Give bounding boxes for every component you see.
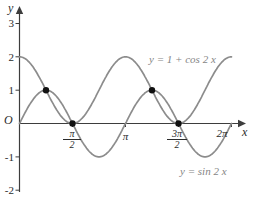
- x-tick-label-pi-over-2: π 2: [63, 129, 81, 150]
- x-tick-label-pi: π: [119, 131, 132, 142]
- y-tick-label-neg2: -2: [0, 184, 14, 196]
- y-tick-label-neg1: -1: [0, 151, 14, 163]
- y-axis-arrow-icon: [16, 6, 23, 14]
- y-tick-label-1: 1: [0, 84, 14, 96]
- fraction-denominator: 2: [63, 140, 81, 150]
- intersection-point: [175, 120, 181, 126]
- intersection-point: [43, 87, 49, 93]
- cos-curve-label: y = 1 + cos 2 x: [149, 53, 216, 65]
- y-axis-label: y: [8, 2, 13, 14]
- y-tick-label-2: 2: [0, 51, 14, 63]
- intersection-point: [149, 87, 155, 93]
- sin-curve-label: y = sin 2 x: [180, 165, 227, 177]
- intersection-point: [69, 120, 75, 126]
- x-tick-label-2pi: 2π: [213, 128, 231, 139]
- x-axis-label: x: [242, 126, 247, 138]
- cos-curve: [20, 57, 232, 124]
- y-tick-label-3: 3: [0, 17, 14, 29]
- x-tick-label-3pi-over-2: 3π 2: [167, 129, 187, 150]
- origin-label: O: [4, 114, 13, 126]
- fraction-denominator: 2: [167, 140, 187, 150]
- trig-functions-chart: y x O 3 2 1 -1 -2 π 2 π 3π 2 2π y = 1 + …: [0, 0, 253, 199]
